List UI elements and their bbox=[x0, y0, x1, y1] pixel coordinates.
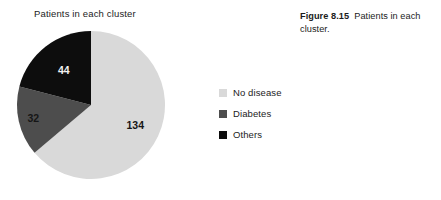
pie-label-no-disease: 134 bbox=[127, 119, 145, 131]
legend-swatch-no-disease bbox=[219, 89, 227, 97]
legend-label-diabetes: Diabetes bbox=[233, 108, 271, 119]
legend-label-others: Others bbox=[233, 129, 262, 140]
legend-label-no-disease: No disease bbox=[233, 87, 282, 98]
legend-item-no-disease[interactable]: No disease bbox=[219, 82, 329, 103]
figure-caption: Figure 8.15 Patients in each cluster. bbox=[300, 10, 436, 36]
legend-swatch-diabetes bbox=[219, 110, 227, 118]
chart-legend: No disease Diabetes Others bbox=[219, 82, 329, 145]
legend-item-diabetes[interactable]: Diabetes bbox=[219, 103, 329, 124]
pie-label-diabetes: 32 bbox=[27, 112, 39, 124]
figure-caption-number: Figure 8.15 bbox=[300, 11, 349, 21]
legend-swatch-others bbox=[219, 131, 227, 139]
pie-slices-group bbox=[17, 31, 165, 179]
pie-label-others: 44 bbox=[58, 64, 70, 76]
legend-item-others[interactable]: Others bbox=[219, 124, 329, 145]
figure-container: Patients in each cluster 1343244 No dise… bbox=[0, 0, 441, 200]
